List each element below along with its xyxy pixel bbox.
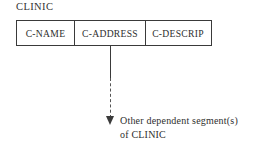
connector-dashed-line bbox=[110, 78, 111, 118]
field-cell-c-name: C-NAME bbox=[17, 21, 74, 45]
connector-solid-stub bbox=[110, 46, 111, 78]
caption-line-2: of CLINIC bbox=[120, 128, 238, 142]
segment-title-clinic: CLINIC bbox=[16, 1, 53, 12]
ims-segment-diagram: CLINIC C-NAME C-ADDRESS C-DESCRIP Other … bbox=[0, 0, 260, 147]
field-cell-c-descrip: C-DESCRIP bbox=[145, 21, 210, 45]
segment-box: C-NAME C-ADDRESS C-DESCRIP bbox=[16, 20, 212, 46]
connector-caption: Other dependent segment(s) of CLINIC bbox=[120, 114, 238, 141]
field-cell-c-address: C-ADDRESS bbox=[74, 21, 145, 45]
caption-line-1: Other dependent segment(s) bbox=[120, 114, 238, 128]
arrowhead-down-icon bbox=[106, 116, 114, 125]
